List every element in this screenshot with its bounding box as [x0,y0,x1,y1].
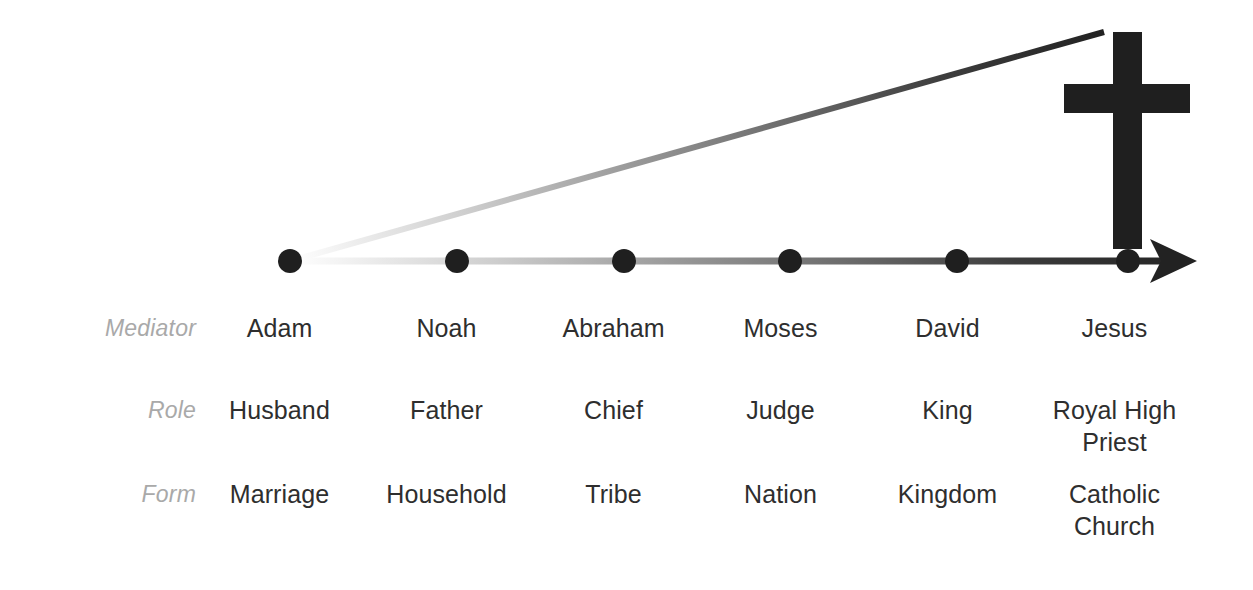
cell-mediator-adam: Adam [196,312,363,344]
cell-text: Marriage [230,480,329,508]
cell-role-chief: Chief [530,394,697,426]
cell-mediator-moses: Moses [697,312,864,344]
cell-text: Father [410,396,483,424]
cell-text: Household [386,480,506,508]
ascending-trajectory-line [290,32,1104,261]
cell-text: Chief [584,396,643,424]
row-role-cells: Husband Father Chief Judge King Royal Hi… [196,394,1253,458]
cell-role-husband: Husband [196,394,363,426]
row-label-role: Role [0,394,196,426]
cell-form-household: Household [363,478,530,510]
cell-form-kingdom: Kingdom [864,478,1031,510]
cell-role-father: Father [363,394,530,426]
cell-role-king: King [864,394,1031,426]
cell-text: Noah [416,314,476,342]
timeline-node-dot[interactable] [778,249,802,273]
cell-text: Adam [247,314,313,342]
cell-text: Moses [743,314,817,342]
row-form-cells: Marriage Household Tribe Nation Kingdom … [196,478,1253,542]
cell-text: David [915,314,979,342]
timeline-node-dot[interactable] [612,249,636,273]
cell-text: Abraham [562,314,664,342]
cell-form-tribe: Tribe [530,478,697,510]
cell-text: King [922,396,972,424]
timeline-node-dot[interactable] [945,249,969,273]
row-form: Form Marriage Household Tribe Nation Kin… [0,478,1253,558]
cell-form-nation: Nation [697,478,864,510]
timeline-graphic [0,0,1253,300]
cell-mediator-noah: Noah [363,312,530,344]
timeline-node-dot[interactable] [445,249,469,273]
cell-text: Tribe [585,480,642,508]
cell-text: Husband [229,396,330,424]
row-mediator: Mediator Adam Noah Abraham Moses David J… [0,312,1253,392]
cell-text: Jesus [1082,314,1148,342]
cell-mediator-david: David [864,312,1031,344]
cell-form-marriage: Marriage [196,478,363,510]
row-label-form: Form [0,478,196,510]
row-mediator-cells: Adam Noah Abraham Moses David Jesus [196,312,1253,344]
timeline-node-dot[interactable] [278,249,302,273]
cell-role-royal-high-priest: Royal HighPriest [1031,394,1198,458]
cell-text: Catholic [1069,480,1160,508]
cell-mediator-abraham: Abraham [530,312,697,344]
cell-mediator-jesus: Jesus [1031,312,1198,344]
cell-text: Nation [744,480,817,508]
row-label-mediator: Mediator [0,312,196,344]
cell-role-judge: Judge [697,394,864,426]
cell-text-line2: Priest [1031,426,1198,458]
cross-icon [1064,32,1190,249]
label-grid: Mediator Adam Noah Abraham Moses David J… [0,312,1253,590]
cell-text: Royal High [1053,396,1176,424]
cell-form-catholic-church: CatholicChurch [1031,478,1198,542]
cell-text-line2: Church [1031,510,1198,542]
cell-text: Kingdom [898,480,997,508]
cell-text: Judge [746,396,815,424]
timeline-node-dot[interactable] [1116,249,1140,273]
diagram-canvas: Mediator Adam Noah Abraham Moses David J… [0,0,1253,590]
row-role: Role Husband Father Chief Judge King Roy… [0,394,1253,474]
